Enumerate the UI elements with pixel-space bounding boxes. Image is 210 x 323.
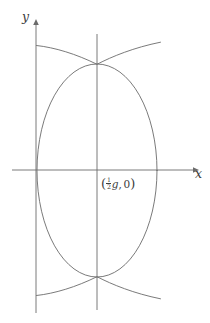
y-axis-arrowhead [33,19,39,25]
one-half-fraction: 1 2 [106,177,111,191]
lower-branch-curve [37,277,161,299]
open-paren: ( [101,177,106,190]
figure-container: y x ( 1 2 g , 0 ) [0,0,210,323]
coordinate-zero: 0 [124,179,131,190]
x-axis-label: x [195,168,202,181]
figure-canvas [0,0,210,323]
fraction-denominator: 2 [106,184,111,191]
variable-g: g [112,179,119,190]
y-axis-label: y [22,11,29,24]
coordinate-comma: , [118,179,122,190]
focus-point-label: ( 1 2 g , 0 ) [101,177,135,191]
upper-branch-curve [37,42,161,64]
close-paren: ) [130,177,135,190]
